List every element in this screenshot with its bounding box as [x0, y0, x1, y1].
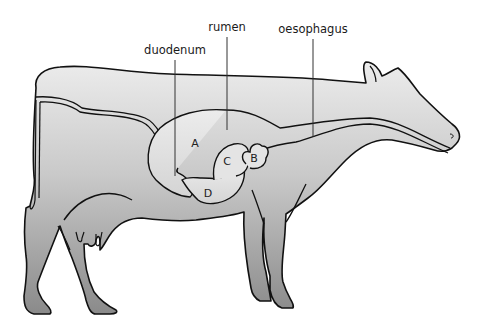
rumen-label: rumen	[208, 22, 246, 34]
oesophagus-label: oesophagus	[278, 24, 347, 36]
chamber-b-letter: B	[250, 153, 258, 164]
cow-digestive-diagram	[0, 0, 480, 335]
chamber-d-letter: D	[204, 188, 212, 199]
chamber-c-letter: C	[223, 156, 231, 167]
cow-body-outline	[24, 62, 459, 314]
duodenum-label: duodenum	[144, 45, 206, 57]
chamber-a-letter: A	[191, 138, 199, 149]
